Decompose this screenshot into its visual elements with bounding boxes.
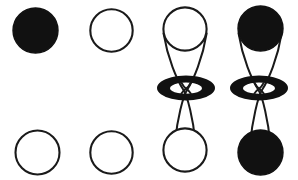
orbital-lobe-col1-top: [13, 8, 58, 53]
orbital-lobe-col3-bottom: [163, 128, 206, 171]
orbital-lobe-col4-bottom: [238, 130, 283, 175]
orbital-phase-diagram: [0, 0, 298, 180]
column-3-group: [157, 7, 215, 171]
orbital-lobe-col4-top: [238, 6, 283, 51]
column-4-group: [230, 6, 288, 175]
orbital-lobe-col3-top: [163, 7, 206, 50]
diagram-canvas: [0, 0, 298, 180]
